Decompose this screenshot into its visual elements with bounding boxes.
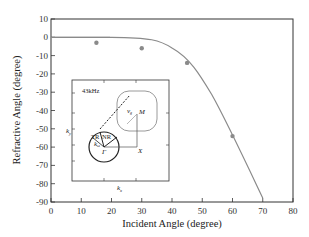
- x-tick-labels: 0 10 20 30 40 50 60 70 80: [49, 206, 298, 216]
- inset-diagram: 43kHz ky kx TR NR kω Γ X M vg: [66, 80, 169, 193]
- svg-text:-80: -80: [36, 179, 48, 189]
- y-axis-title: Refractive Angle (degree): [11, 55, 23, 165]
- svg-text:-50: -50: [36, 124, 48, 134]
- svg-text:ky: ky: [66, 127, 71, 136]
- svg-text:0: 0: [49, 206, 54, 216]
- x-axis-title: Incident Angle (degree): [122, 218, 222, 230]
- svg-text:43kHz: 43kHz: [82, 87, 99, 94]
- svg-text:-20: -20: [36, 69, 48, 79]
- svg-text:M: M: [138, 108, 146, 116]
- svg-text:10: 10: [39, 14, 49, 24]
- svg-text:-70: -70: [36, 160, 48, 170]
- svg-text:10: 10: [77, 206, 87, 216]
- svg-text:-60: -60: [36, 142, 48, 152]
- svg-text:40: 40: [168, 206, 178, 216]
- svg-text:kx: kx: [117, 184, 122, 193]
- svg-text:80: 80: [289, 206, 299, 216]
- y-tick-labels: 10 0 -10 -20 -30 -40 -50 -60 -70 -80 -90: [36, 14, 49, 207]
- svg-text:20: 20: [107, 206, 117, 216]
- svg-text:60: 60: [228, 206, 238, 216]
- svg-text:-90: -90: [36, 197, 48, 207]
- svg-text:X: X: [137, 147, 143, 155]
- svg-text:NR: NR: [102, 133, 112, 140]
- chart: 10 0 -10 -20 -30 -40 -50 -60 -70 -80 -90…: [0, 0, 309, 237]
- y-axis: [51, 19, 55, 202]
- svg-text:TR: TR: [91, 133, 100, 140]
- svg-text:50: 50: [198, 206, 208, 216]
- svg-text:-40: -40: [36, 106, 48, 116]
- svg-text:70: 70: [258, 206, 268, 216]
- svg-text:30: 30: [137, 206, 147, 216]
- svg-text:0: 0: [44, 32, 49, 42]
- x-axis: [51, 198, 293, 202]
- svg-text:-30: -30: [36, 87, 48, 97]
- svg-text:-10: -10: [36, 51, 48, 61]
